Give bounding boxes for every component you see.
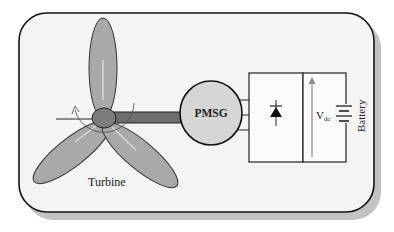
battery-label: Battery bbox=[355, 99, 367, 132]
turbine-hub bbox=[92, 108, 116, 128]
rectifier-block bbox=[249, 73, 303, 162]
turbine-label: Turbine bbox=[88, 175, 126, 189]
wind-system-diagram: Turbine PMSG Vdc Battery bbox=[0, 0, 394, 232]
battery-icon bbox=[335, 104, 353, 123]
pmsg-label: PMSG bbox=[194, 107, 227, 119]
generator: PMSG bbox=[180, 81, 242, 145]
turbine-shaft bbox=[110, 112, 183, 123]
